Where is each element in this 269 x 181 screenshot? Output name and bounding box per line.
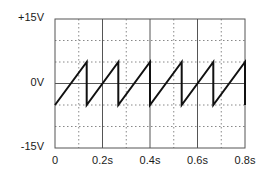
y-tick-label: 0V: [0, 76, 44, 88]
x-tick-label: 0: [35, 154, 75, 166]
y-tick-label: +15V: [0, 11, 44, 23]
y-tick-label: -15V: [0, 140, 44, 152]
x-tick-label: 0.4s: [130, 154, 170, 166]
x-tick-label: 0.2s: [83, 154, 123, 166]
x-tick-label: 0.6s: [178, 154, 218, 166]
x-tick-label: 0.8s: [225, 154, 265, 166]
